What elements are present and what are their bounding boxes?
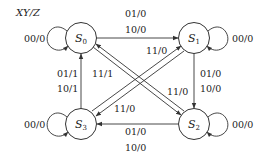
edge-s0-s2 [93,47,181,115]
state-diagram: XY/Z S0 S1 S2 S3 00/0 00/0 00/0 00/0 01/… [0,0,263,162]
label-s2-s0: 11/1 [92,68,113,79]
label-s3-s0-b: 10/1 [57,83,78,94]
label-s2-s3-b: 10/0 [125,142,146,153]
self-loop-s0 [47,27,68,50]
label-s3-s1: 11/0 [146,45,167,56]
label-s2-self: 00/0 [232,119,253,130]
label-s1-s2-b: 10/0 [200,83,221,94]
state-s0: S0 [66,23,97,54]
label-s2-s3-a: 01/0 [125,126,146,137]
self-loop-s2 [207,113,228,136]
label-s0-self: 00/0 [24,33,45,44]
label-s0-s1-a: 01/0 [125,8,146,19]
self-loop-s1 [207,27,228,50]
state-s3: S3 [66,109,97,140]
self-loop-s3 [47,113,68,136]
label-s1-s2-a: 01/0 [200,68,221,79]
label-s0-s2: 11/0 [167,86,188,97]
label-s1-s3: 11/0 [114,103,135,114]
label-s3-s0-a: 01/1 [57,68,78,79]
io-legend-label: XY/Z [15,7,41,18]
label-s0-s1-b: 10/0 [125,24,146,35]
state-s2: S2 [179,109,210,140]
state-s1: S1 [179,23,210,54]
label-s1-self: 00/0 [232,33,253,44]
label-s3-self: 00/0 [24,119,45,130]
